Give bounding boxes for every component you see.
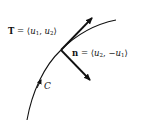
tangent-vector-label: T = ⟨u1, u2⟩ xyxy=(8,27,57,36)
tangent-close: ⟩ xyxy=(54,26,57,36)
normal-sep: , − xyxy=(103,48,116,58)
normal-equals: = ⟨ xyxy=(78,48,94,58)
tangent-equals: = ⟨ xyxy=(14,26,30,36)
diagram-canvas xyxy=(0,0,144,128)
normal-close: ⟩ xyxy=(125,48,128,58)
tangent-vector-arrow xyxy=(61,18,92,50)
normal-vector-label: n = ⟨u2, −u1⟩ xyxy=(72,49,128,58)
curve-label: C xyxy=(44,82,51,91)
